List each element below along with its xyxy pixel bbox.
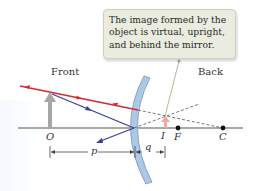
callout-pointer xyxy=(165,61,179,116)
center-point xyxy=(221,126,226,131)
front-label: Front xyxy=(51,66,79,77)
object-arrow xyxy=(48,100,52,128)
q-label: q xyxy=(145,141,151,152)
p-label: p xyxy=(90,145,98,156)
image-arrow xyxy=(164,121,167,128)
callout-line-3: and behind the mirror. xyxy=(109,39,230,51)
focal-point xyxy=(176,126,181,131)
callout-line-2: object is virtual, upright, xyxy=(109,26,230,38)
back-label: Back xyxy=(198,66,223,77)
focal-point-label: F xyxy=(174,131,181,142)
convex-mirror xyxy=(130,76,152,184)
blue-ray-reflected xyxy=(98,128,134,142)
object-point-label: O xyxy=(46,131,54,142)
blue-ray-incident xyxy=(52,94,134,128)
center-point-label: C xyxy=(219,131,227,142)
dashed-extension-red xyxy=(138,110,223,128)
callout-line-1: The image formed by the xyxy=(109,14,230,26)
convex-mirror-diagram: The image formed by the object is virtua… xyxy=(0,0,254,191)
image-point-label: I xyxy=(161,130,165,141)
callout-box: The image formed by the object is virtua… xyxy=(103,9,236,59)
